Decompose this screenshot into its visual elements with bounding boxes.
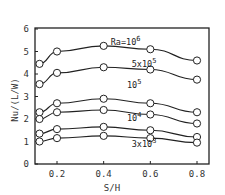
x-axis-label: S/H — [104, 183, 120, 193]
data-point — [147, 46, 154, 53]
data-point — [36, 138, 43, 145]
y-tick-label: 3 — [24, 92, 29, 102]
series-label: 3x103 — [132, 137, 157, 149]
data-point — [100, 132, 107, 139]
data-point — [193, 109, 200, 116]
series-label: Ra=106 — [111, 35, 141, 47]
data-point — [100, 95, 107, 102]
series-line — [40, 136, 198, 143]
data-point — [193, 57, 200, 64]
y-tick-label: 1 — [24, 137, 29, 147]
data-point — [36, 109, 43, 116]
data-point — [193, 76, 200, 83]
data-point — [53, 126, 60, 133]
series-line — [40, 110, 198, 124]
data-point — [193, 139, 200, 146]
series-line — [40, 99, 198, 113]
x-tick-label: 0.4 — [96, 169, 112, 179]
x-tick-label: 0.8 — [189, 169, 205, 179]
data-point — [147, 100, 154, 107]
series-label: 104 — [127, 111, 141, 123]
data-point — [100, 106, 107, 113]
data-point — [36, 130, 43, 137]
data-series — [36, 42, 201, 146]
data-point — [53, 109, 60, 116]
data-point — [53, 48, 60, 55]
x-tick-label: 0.2 — [49, 169, 65, 179]
data-point — [193, 120, 200, 127]
y-tick-label: 4 — [24, 69, 29, 79]
nusselt-chart: 01234560.20.40.60.8S/HNu/(L/W) Ra=1065x1… — [0, 0, 225, 195]
y-tick-label: 6 — [24, 24, 29, 34]
series-line — [40, 67, 198, 84]
data-point — [53, 100, 60, 107]
y-tick-label: 0 — [24, 159, 29, 169]
plot-frame — [35, 28, 209, 164]
data-point — [100, 64, 107, 71]
data-point — [36, 115, 43, 122]
data-point — [100, 42, 107, 49]
data-point — [53, 135, 60, 142]
series-line — [40, 127, 198, 137]
x-tick-label: 0.6 — [142, 169, 158, 179]
series-line — [40, 46, 198, 64]
data-point — [100, 123, 107, 130]
y-tick-label: 2 — [24, 114, 29, 124]
data-point — [147, 127, 154, 134]
data-point — [36, 81, 43, 88]
y-axis-label: Nu/(L/W) — [10, 78, 20, 121]
data-point — [36, 60, 43, 67]
data-point — [53, 69, 60, 76]
series-label: 105 — [127, 78, 141, 90]
y-tick-label: 5 — [24, 47, 29, 57]
data-point — [147, 111, 154, 118]
